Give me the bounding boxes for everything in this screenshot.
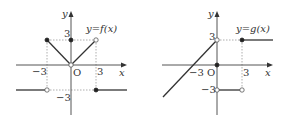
- tick-neg-x-g: −3: [189, 67, 204, 78]
- filled-point-icon: [45, 38, 49, 42]
- y-axis-label-g: y: [207, 8, 214, 19]
- open-point-icon: [240, 88, 244, 92]
- open-point-icon: [45, 88, 49, 92]
- tick-neg-x-f: −3: [32, 66, 47, 77]
- filled-point-icon: [94, 88, 98, 92]
- origin-label-f: O: [73, 67, 81, 78]
- y-axis-arrow-icon: [215, 11, 220, 17]
- graph-g: y x 3 −3 O 3 −3 y=g(x): [162, 8, 273, 115]
- f-piece-pos-slope: [71, 40, 96, 65]
- y-axis-arrow-icon: [69, 11, 74, 17]
- function-label-g: y=g(x): [235, 23, 270, 34]
- x-axis-label-g: x: [265, 67, 271, 78]
- filled-point-icon: [240, 38, 244, 42]
- tick-pos-x-f: 3: [97, 66, 103, 77]
- function-label-f: y=f(x): [85, 23, 117, 34]
- tick-pos-y-f: 3: [64, 28, 70, 39]
- x-axis-label-f: x: [119, 67, 125, 78]
- tick-neg-y-f: −3: [56, 92, 71, 103]
- open-point-icon: [94, 38, 98, 42]
- graph-f: y x 3 −3 O 3 −3 y=f(x): [16, 8, 127, 115]
- filled-point-icon: [215, 63, 219, 67]
- tick-pos-y-g: 3: [209, 31, 215, 42]
- open-point-icon: [215, 38, 219, 42]
- graphs-figure: y x 3 −3 O 3 −3 y=f(x) y x 3 −3 O 3 −3: [0, 0, 286, 128]
- tick-neg-y-g: −3: [201, 84, 216, 95]
- origin-label-g: O: [207, 67, 215, 78]
- tick-pos-x-g: 3: [243, 67, 249, 78]
- f-piece-neg-slope: [47, 40, 71, 65]
- y-axis-label-f: y: [61, 8, 68, 19]
